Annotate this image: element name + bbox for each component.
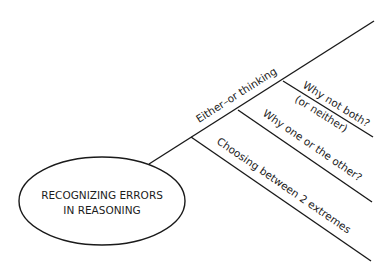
central-topic-line1: RECOGNIZING ERRORS: [41, 189, 163, 201]
sub-branch-line-3: [191, 137, 371, 261]
mind-map-canvas: RECOGNIZING ERRORS IN REASONING Either–o…: [0, 0, 392, 273]
central-topic-ellipse: [19, 157, 185, 245]
main-branch-line: [149, 21, 374, 164]
sub-branch-label-3: Choosing between 2 extremes: [215, 135, 353, 236]
central-topic-line2: IN REASONING: [63, 204, 140, 216]
